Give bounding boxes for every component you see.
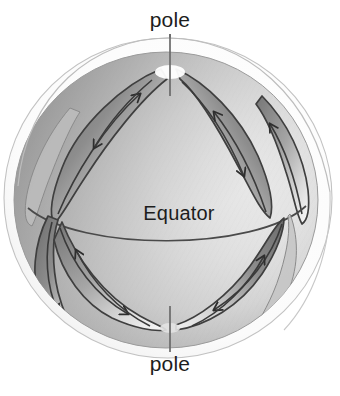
pole-label-top: pole — [0, 8, 340, 32]
pole-label-bottom: pole — [0, 352, 340, 376]
diagram-canvas: pole Equator pole — [0, 0, 340, 396]
sphere-convection-diagram — [0, 0, 340, 396]
equator-label: Equator — [0, 202, 340, 225]
